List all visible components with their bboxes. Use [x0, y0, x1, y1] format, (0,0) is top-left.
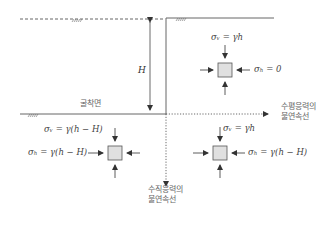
horizontal-discontinuity-label-line1: 수평응력의	[281, 102, 316, 112]
bottom-right-sigma-v: σᵥ = γh	[223, 123, 255, 133]
stress-element-bottom-right	[193, 127, 245, 178]
top-right-sigma-v: σᵥ = γh	[211, 32, 243, 42]
height-label: H	[138, 65, 146, 75]
stress-element-top-right	[200, 45, 250, 95]
top-right-sigma-h: σₕ = 0	[254, 64, 281, 74]
bottom-right-sigma-h: σₕ = γ(h − H)	[248, 147, 307, 157]
horizontal-discontinuity-label-line2: 불연속선	[281, 112, 316, 122]
horizontal-discontinuity-label: 수평응력의 불연속선	[281, 102, 316, 122]
vertical-discontinuity-label-line1: 수직응력의	[148, 185, 183, 195]
excavation-surface-label: 굴착면	[80, 99, 101, 109]
vertical-discontinuity-label: 수직응력의 불연속선	[148, 185, 183, 205]
stress-element-bottom-left	[88, 128, 140, 178]
vertical-discontinuity-label-line2: 불연속선	[148, 195, 183, 205]
bottom-left-sigma-v: σᵥ = γ(h − H)	[44, 124, 103, 134]
bottom-left-sigma-h: σₕ = γ(h − H)	[28, 147, 87, 157]
